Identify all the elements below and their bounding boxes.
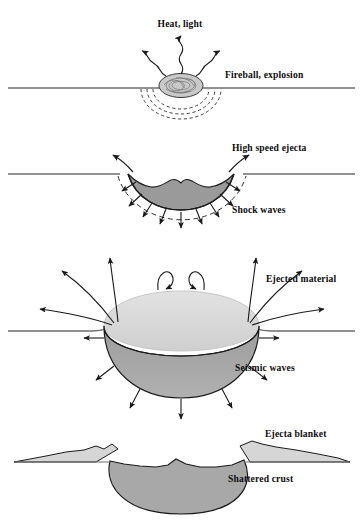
ejecta-blanket-right — [240, 441, 350, 462]
transient-crater-fill — [128, 174, 234, 210]
recirculation-arrows-panel-3 — [158, 272, 204, 290]
impact-crater-diagram: Heat, light Fireball, explosion Hig — [0, 0, 363, 532]
label-ejected-material: Ejected material — [266, 273, 337, 284]
label-shock-waves: Shock waves — [232, 204, 286, 215]
label-seismic-waves: Seismic waves — [235, 362, 295, 373]
shattered-crust-fill — [109, 459, 248, 514]
panel-3-ejection: Ejected material Seismic waves — [8, 258, 355, 419]
fireball-shape — [159, 74, 203, 98]
panel-2-excavation: High speed ejecta Shock waves — [8, 142, 355, 228]
label-fireball-explosion: Fireball, explosion — [225, 69, 304, 80]
panel-1-fireball: Heat, light Fireball, explosion — [8, 18, 355, 119]
label-shattered-crust: Shattered crust — [228, 473, 294, 484]
radiation-arrows-panel-1 — [142, 36, 219, 76]
label-ejecta-blanket: Ejecta blanket — [265, 428, 327, 439]
label-high-speed-ejecta: High speed ejecta — [232, 142, 307, 153]
diagram-canvas: Heat, light Fireball, explosion Hig — [0, 0, 363, 532]
ground-line-panel-3-left — [8, 327, 116, 331]
ground-line-panel-3-right — [247, 327, 355, 331]
ejecta-blanket-left — [14, 444, 118, 462]
panel-4-final-crater: Ejecta blanket Shattered crust — [14, 428, 350, 514]
ejecta-arrows-panel-2 — [113, 155, 249, 172]
excavation-dome — [104, 291, 259, 351]
label-heat-light: Heat, light — [158, 18, 203, 29]
